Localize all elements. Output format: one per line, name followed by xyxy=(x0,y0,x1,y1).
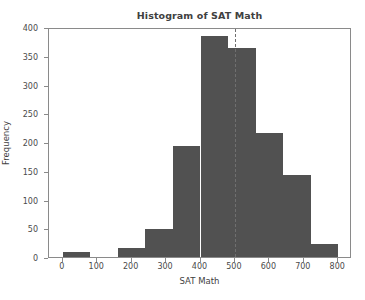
x-tick-label: 100 xyxy=(78,262,114,271)
plot-area xyxy=(48,28,351,258)
x-tick-label: 700 xyxy=(285,262,321,271)
x-tick-label: 200 xyxy=(113,262,149,271)
x-tick-label: 300 xyxy=(147,262,183,271)
x-tick-label: 500 xyxy=(216,262,252,271)
annotation-layer xyxy=(49,29,350,257)
x-tick-label: 400 xyxy=(182,262,218,271)
x-tick-mark xyxy=(303,258,304,262)
x-tick-mark xyxy=(96,258,97,262)
x-tick-mark xyxy=(234,258,235,262)
x-tick-label: 600 xyxy=(250,262,286,271)
histogram-figure: Histogram of SAT Math Frequency 05010015… xyxy=(0,0,365,300)
x-tick-mark xyxy=(337,258,338,262)
x-tick-mark xyxy=(131,258,132,262)
x-tick-mark xyxy=(62,258,63,262)
x-tick-label: 800 xyxy=(319,262,355,271)
x-axis-label: SAT Math xyxy=(48,276,351,286)
x-tick-mark xyxy=(268,258,269,262)
x-tick-mark xyxy=(165,258,166,262)
x-tick-mark xyxy=(200,258,201,262)
mean-reference-line xyxy=(235,29,236,257)
x-tick-label: 0 xyxy=(44,262,80,271)
